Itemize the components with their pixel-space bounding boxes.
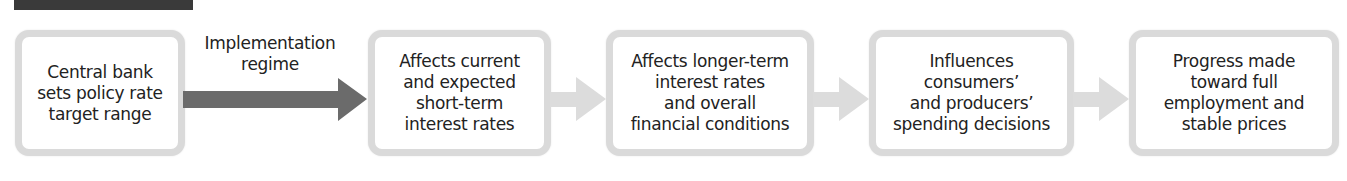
step-label: Progress made toward full employment and…: [1164, 51, 1305, 135]
arrow-right-dark-icon: [183, 76, 369, 124]
connector-label-implementation-regime: Implementation regime: [185, 33, 355, 75]
step-label: Influences consumers’ and producers’ spe…: [893, 51, 1050, 135]
step-box-full-employment: Progress made toward full employment and…: [1129, 30, 1339, 156]
arrow-right-light-icon: [550, 76, 608, 124]
header-bar: [14, 0, 193, 10]
step-box-spending-decisions: Influences consumers’ and producers’ spe…: [869, 30, 1074, 156]
arrow-right-light-icon: [1073, 76, 1131, 124]
step-label: Affects current and expected short-term …: [399, 51, 520, 135]
arrow-right-light-icon: [813, 76, 871, 124]
step-box-policy-rate: Central bank sets policy rate target ran…: [15, 30, 185, 156]
step-label: Affects longer-term interest rates and o…: [631, 51, 790, 135]
step-box-short-term-rates: Affects current and expected short-term …: [368, 30, 551, 156]
step-box-longer-term-rates: Affects longer-term interest rates and o…: [606, 30, 814, 156]
step-label: Central bank sets policy rate target ran…: [37, 62, 162, 125]
